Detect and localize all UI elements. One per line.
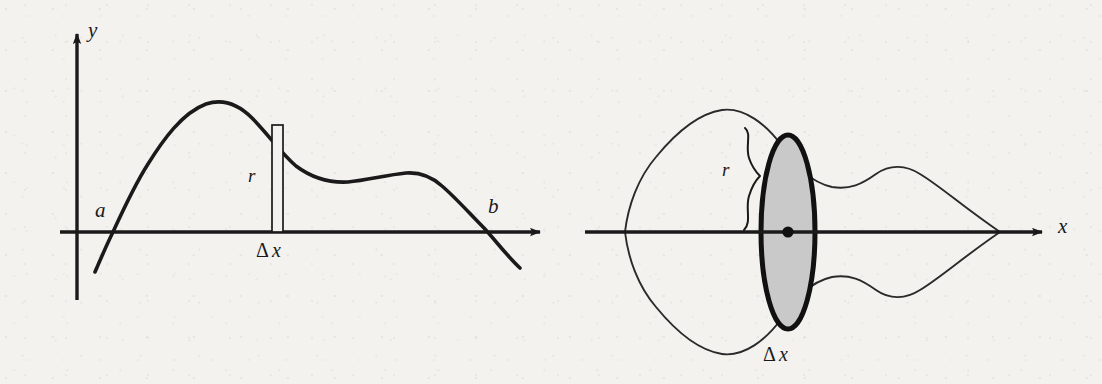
radius-brace [744, 128, 760, 230]
left-panel-group [60, 34, 540, 300]
function-curve [95, 102, 520, 272]
right-radius-label: r [722, 160, 729, 179]
right-thickness-var: x [779, 343, 788, 365]
point-a-label: a [95, 200, 106, 221]
left-radius-label: r [248, 166, 255, 185]
disk-center-dot [782, 226, 793, 237]
point-b-label: b [488, 196, 499, 217]
left-delta-glyph: Δ [256, 239, 269, 261]
right-panel-group [585, 110, 1042, 355]
left-thickness-var: x [272, 239, 281, 261]
figure-root: y a b r Δx x r Δx [0, 0, 1102, 384]
left-thickness-label: Δx [256, 240, 281, 260]
right-delta-glyph: Δ [763, 343, 776, 365]
y-axis-label: y [88, 20, 97, 41]
figure-canvas [0, 0, 1102, 384]
right-thickness-label: Δx [763, 344, 788, 364]
x-axis-label: x [1058, 216, 1067, 237]
representative-rectangle [272, 125, 283, 232]
